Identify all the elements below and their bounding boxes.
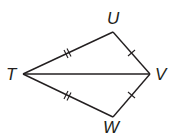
vertex-label-T: T (6, 65, 18, 84)
segment-TU (23, 32, 113, 74)
vertex-label-V: V (155, 65, 168, 84)
kite-diagram: T U V W (0, 0, 182, 135)
vertex-label-U: U (107, 9, 120, 28)
segment-WT (23, 74, 113, 117)
vertex-label-W: W (103, 118, 121, 135)
